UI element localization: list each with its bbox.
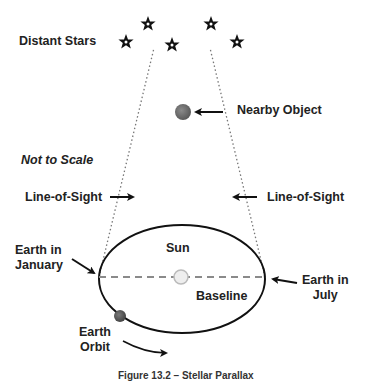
sun-icon [174, 270, 188, 284]
star-icon [229, 34, 244, 49]
star-icon [203, 16, 218, 31]
line-of-sight-january [99, 48, 154, 277]
label-earth-january-line1: Earth in [15, 243, 63, 258]
figure-caption: Figure 13.2 – Stellar Parallax [118, 368, 254, 383]
label-earth-january-line2: January [15, 258, 63, 273]
arrow-orbit-direction [123, 341, 166, 353]
label-earth-july: Earth in July [302, 273, 349, 303]
label-line-of-sight-right: Line-of-Sight [267, 190, 344, 205]
label-earth-january: Earth in January [15, 243, 63, 273]
label-line-of-sight-left: Line-of-Sight [25, 190, 102, 205]
label-distant-stars: Distant Stars [19, 34, 96, 49]
star-icon [118, 34, 133, 49]
label-sun: Sun [166, 241, 190, 256]
label-not-to-scale: Not to Scale [21, 153, 93, 168]
nearby-object-icon [175, 104, 191, 120]
label-earth-july-line2: July [302, 288, 349, 303]
star-icon [140, 16, 155, 31]
label-baseline: Baseline [196, 289, 247, 304]
arrow-earth-january [72, 259, 94, 273]
earth-icon [114, 310, 126, 322]
star-icon [164, 37, 179, 52]
line-of-sight-july [210, 48, 265, 277]
label-earth-july-line1: Earth in [302, 273, 349, 288]
label-nearby-object: Nearby Object [237, 103, 322, 118]
arrow-earth-july [273, 279, 297, 283]
label-earth-orbit-line2: Orbit [79, 340, 111, 355]
label-earth-orbit: Earth Orbit [79, 325, 111, 355]
distant-stars-group [118, 16, 244, 52]
label-earth-orbit-line1: Earth [79, 325, 111, 340]
